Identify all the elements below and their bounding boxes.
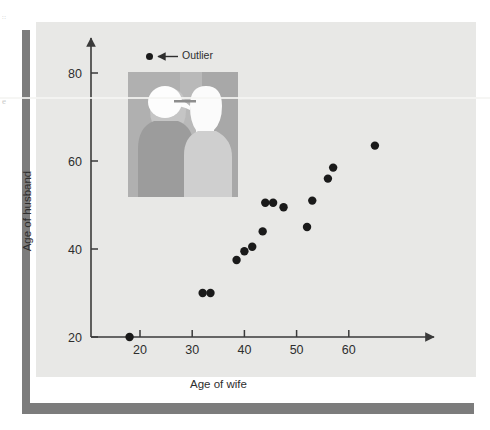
data-point: [269, 199, 277, 207]
data-point: [198, 289, 206, 297]
x-axis-tick-label: 60: [342, 343, 356, 357]
data-point: [240, 247, 248, 255]
data-point: [303, 223, 311, 231]
data-point: [248, 243, 256, 251]
inset-photo: [128, 72, 238, 197]
x-axis-tick-label: 30: [185, 343, 199, 357]
x-axis-tick-label: 20: [133, 343, 147, 357]
data-point: [258, 227, 266, 235]
data-point: [371, 141, 379, 149]
outlier-legend-marker: [146, 53, 153, 60]
x-axis-tick-label: 50: [290, 343, 304, 357]
y-axis-tick-label: 40: [68, 243, 82, 257]
x-axis-tick-label: 40: [237, 343, 251, 357]
chart-axes: 204060802030405060: [68, 38, 434, 357]
data-point: [279, 203, 287, 211]
data-point: [329, 163, 337, 171]
y-axis-title: Age of husband: [21, 156, 33, 266]
data-point: [308, 196, 316, 204]
x-axis-title: Age of wife: [190, 378, 247, 390]
outlier-legend-label: Outlier: [182, 49, 213, 61]
y-axis-tick-label: 80: [68, 67, 82, 81]
scan-band-artifact: [0, 97, 490, 99]
scatter-chart: 204060802030405060: [0, 0, 490, 430]
y-axis-tick-label: 20: [68, 331, 82, 345]
outlier-data-point: [125, 333, 133, 341]
y-axis-tick-label: 60: [68, 155, 82, 169]
data-point: [206, 289, 214, 297]
data-point: [261, 199, 269, 207]
data-point: [232, 256, 240, 264]
data-point: [324, 174, 332, 182]
